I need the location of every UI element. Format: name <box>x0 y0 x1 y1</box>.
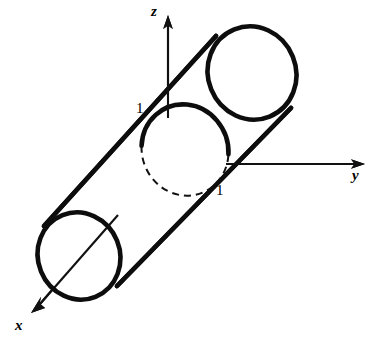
y-axis-label: y <box>352 168 359 183</box>
geometry-svg <box>0 0 372 346</box>
x-axis-label: x <box>15 318 23 333</box>
z-axis-label: z <box>151 4 157 19</box>
z-axis-tick-label-1: 1 <box>136 101 144 116</box>
y-axis-overlay <box>226 159 365 168</box>
y-axis-tick-label-1: 1 <box>216 183 224 198</box>
figure-canvas: z y x 1 1 <box>0 0 372 346</box>
